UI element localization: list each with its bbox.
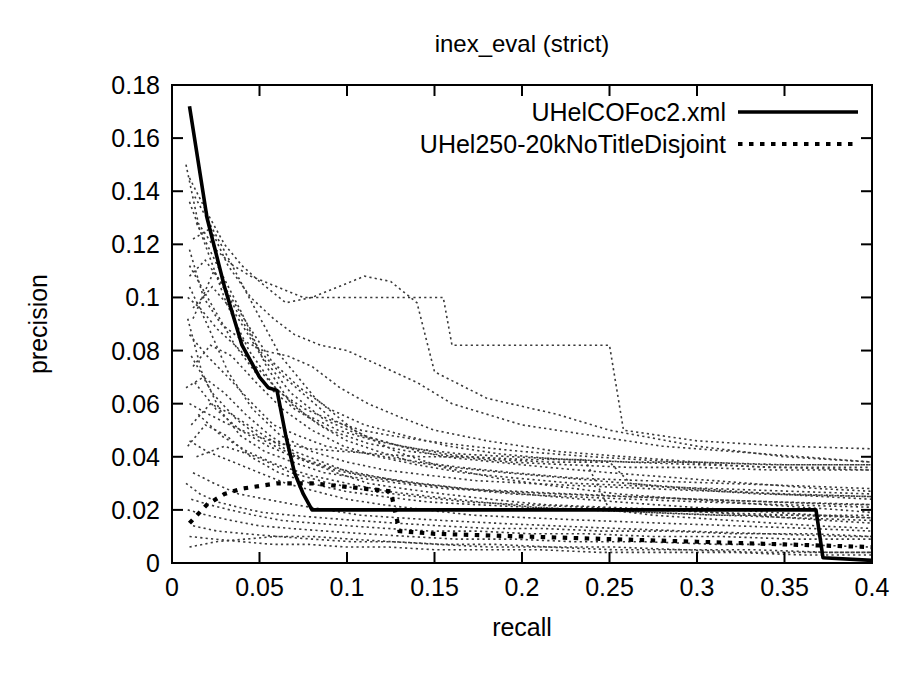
x-tick-label: 0: [165, 573, 179, 601]
background-curve: [188, 319, 872, 505]
x-tick-label: 0.05: [235, 573, 284, 601]
y-axis-title: precision: [24, 274, 52, 374]
background-curve: [193, 526, 872, 553]
background-curve: [193, 287, 872, 497]
background-curve: [190, 178, 873, 462]
x-tick-label: 0.25: [585, 573, 634, 601]
x-tick-label: 0.35: [760, 573, 809, 601]
background-curve: [190, 250, 873, 465]
legend-label-0: UHelCOFoc2.xml: [532, 98, 726, 126]
series-curve-solid: [190, 106, 873, 560]
legend-label-1: UHel250-20kNoTitleDisjoint: [420, 130, 726, 158]
background-curve: [191, 356, 872, 507]
y-tick-label: 0.04: [111, 443, 160, 471]
y-tick-label: 0.08: [111, 337, 160, 365]
x-tick-label: 0.4: [855, 573, 890, 601]
chart-title: inex_eval (strict): [435, 30, 610, 57]
precision-recall-chart: inex_eval (strict)00.050.10.150.20.250.3…: [0, 0, 919, 674]
x-tick-label: 0.3: [680, 573, 715, 601]
y-tick-label: 0.12: [111, 230, 160, 258]
y-tick-label: 0: [146, 549, 160, 577]
background-curve: [190, 266, 873, 470]
background-curve: [188, 510, 872, 547]
y-tick-label: 0.1: [125, 283, 160, 311]
y-tick-label: 0.06: [111, 390, 160, 418]
y-tick-label: 0.02: [111, 496, 160, 524]
background-curve: [186, 165, 872, 449]
y-tick-label: 0.18: [111, 71, 160, 99]
background-curve: [190, 260, 873, 470]
y-tick-label: 0.16: [111, 124, 160, 152]
background-curve: [193, 271, 872, 491]
background-curve: [190, 202, 873, 465]
plot-curves: [186, 106, 872, 560]
y-tick-label: 0.14: [111, 177, 160, 205]
background-curve: [190, 536, 873, 555]
x-tick-label: 0.15: [410, 573, 459, 601]
background-curve: [195, 197, 872, 513]
background-curve: [193, 228, 872, 462]
x-tick-label: 0.2: [505, 573, 540, 601]
background-curve: [195, 382, 872, 504]
chart-container: inex_eval (strict)00.050.10.150.20.250.3…: [0, 0, 919, 674]
x-axis-title: recall: [492, 613, 552, 641]
x-tick-label: 0.1: [330, 573, 365, 601]
background-curve: [188, 297, 872, 467]
